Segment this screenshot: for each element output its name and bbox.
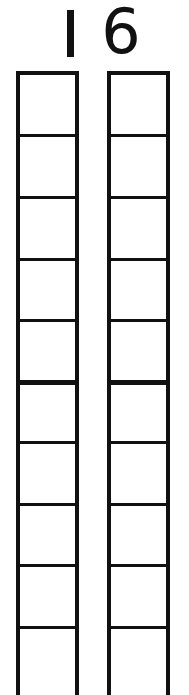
ones-digit: 6 [100,2,142,62]
ones-column [107,71,170,695]
cell-divider [20,626,75,629]
five-mark-divider [111,380,166,385]
cell-divider [20,196,75,199]
cell-divider [20,564,75,567]
five-mark-divider [20,380,75,385]
cell-divider [20,441,75,444]
cell-divider [20,134,75,137]
cell-divider [111,258,166,261]
tens-column [16,71,79,695]
cell-divider [111,564,166,567]
cell-divider [111,134,166,137]
cell-divider [111,319,166,322]
cell-divider [111,441,166,444]
cell-divider [111,503,166,506]
cell-divider [20,258,75,261]
cell-divider [20,503,75,506]
cell-divider [111,196,166,199]
cell-divider [20,319,75,322]
cell-divider [111,626,166,629]
tens-digit [67,10,74,57]
